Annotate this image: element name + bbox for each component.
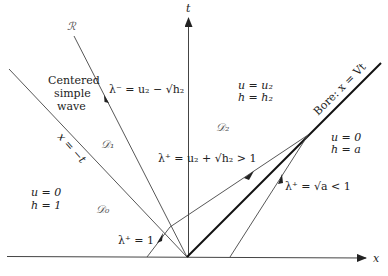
bore-label: Bore: x = Vt	[311, 60, 369, 118]
characteristics-diagram: x t x = −t ℛ Bore: x = Vt Centered simpl…	[0, 0, 388, 276]
x-axis-label: x	[373, 252, 380, 265]
lambda-plus-middle-arrow-icon	[244, 171, 254, 180]
centered-wave-label-2: simple	[54, 87, 91, 100]
region-d0-u: u = 0	[31, 186, 61, 199]
lambda-plus-left-label: λ⁺ = 1	[118, 234, 154, 247]
region-d0-h: h = 1	[31, 199, 61, 212]
region-right-h: h = a	[331, 143, 361, 156]
region-d2-name: 𝒟₂	[216, 121, 229, 134]
lambda-plus-left-arrow-icon	[157, 233, 163, 243]
rarefaction-tail-line	[74, 36, 187, 257]
lambda-plus-right-label: λ⁺ = √a < 1	[285, 180, 351, 193]
centered-wave-label-3: wave	[57, 100, 86, 113]
lambda-plus-middle-label: λ⁺ = u₂ + √h₂ > 1	[158, 152, 256, 165]
region-d2-h: h = h₂	[238, 91, 273, 104]
t-axis-label: t	[186, 2, 191, 15]
lambda-minus-label: λ⁻ = u₂ − √h₂	[109, 83, 184, 96]
region-d0-name: 𝒟₀	[96, 203, 110, 216]
centered-wave-label-1: Centered	[48, 74, 100, 87]
rarefaction-label: ℛ	[67, 20, 77, 33]
region-d1-name: 𝒟₁	[101, 138, 114, 151]
